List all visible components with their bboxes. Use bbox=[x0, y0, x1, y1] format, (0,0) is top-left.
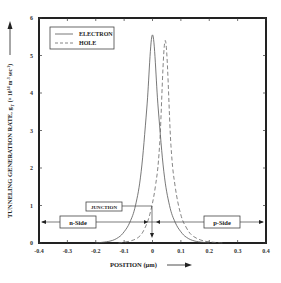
p-side-arrow-icon bbox=[259, 220, 264, 224]
x-axis-title: POSITION (µm) bbox=[110, 261, 157, 269]
y-axis-arrow-icon bbox=[8, 21, 13, 29]
y-tick-label: 2 bbox=[30, 165, 33, 171]
x-tick-label: 0 bbox=[151, 248, 154, 254]
y-tick-label: 1 bbox=[30, 203, 33, 209]
legend-electron-label: ELECTRON bbox=[79, 31, 113, 37]
x-tick-label: -0.1 bbox=[119, 248, 129, 254]
n-side-arrow-icon bbox=[41, 220, 46, 224]
series-hole-line bbox=[118, 41, 223, 244]
n-side-label: n-Side bbox=[69, 219, 87, 226]
y-tick-label: 6 bbox=[30, 15, 33, 21]
x-axis-title-group: POSITION (µm) bbox=[110, 261, 192, 269]
side-annotations: n-Side p-Side bbox=[41, 216, 264, 228]
y-tick-label: 5 bbox=[30, 53, 33, 59]
x-axis-arrow-icon bbox=[185, 263, 192, 268]
legend-hole-label: HOLE bbox=[79, 40, 96, 46]
y-axis-title-group: TUNNELING GENERATION RATE, gT(× 1014 m-3… bbox=[6, 21, 15, 218]
junction-arrowhead-icon bbox=[150, 233, 154, 238]
x-tick-label: 0.3 bbox=[234, 248, 242, 254]
x-tick-label: -0.4 bbox=[34, 248, 44, 254]
plot-frame bbox=[39, 18, 266, 243]
y-tick-label: 3 bbox=[30, 128, 33, 134]
center-right-arrow-icon bbox=[156, 220, 160, 224]
chart-canvas: -0.4-0.3-0.2-0.100.10.20.30.40123456 ELE… bbox=[0, 0, 281, 283]
series-group bbox=[96, 35, 224, 243]
y-axis-title: TUNNELING GENERATION RATE, gT(× 1014 m-3… bbox=[6, 64, 15, 218]
p-side-label: p-Side bbox=[213, 219, 231, 226]
x-tick-label: -0.3 bbox=[63, 248, 73, 254]
x-tick-label: 0.1 bbox=[177, 248, 185, 254]
x-tick-label: 0.2 bbox=[206, 248, 214, 254]
x-tick-label: -0.2 bbox=[91, 248, 101, 254]
junction-label: JUNCTION bbox=[91, 205, 118, 210]
center-left-arrow-icon bbox=[144, 220, 148, 224]
x-tick-label: 0.4 bbox=[262, 248, 270, 254]
y-tick-label: 4 bbox=[30, 90, 33, 96]
y-tick-label: 0 bbox=[30, 240, 33, 246]
legend: ELECTRON HOLE bbox=[50, 27, 114, 49]
series-electron-line bbox=[96, 35, 210, 243]
